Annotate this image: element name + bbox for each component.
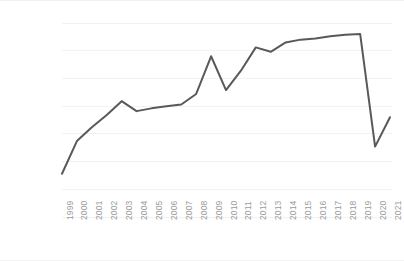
x-axis-tick-label: 2002 — [110, 201, 119, 220]
x-axis-tick-label: 2010 — [230, 201, 239, 220]
x-axis-tick-label: 2008 — [200, 201, 209, 220]
x-axis-tick-label: 2012 — [259, 201, 268, 220]
x-axis-tick-label: 2017 — [334, 201, 343, 220]
line-chart-figure: 0500,0001,000,0001,500,0002,000,0002,500… — [0, 0, 404, 261]
x-axis-tick-label: 1999 — [66, 201, 75, 220]
x-axis-tick-label: 2011 — [244, 201, 253, 220]
x-axis-tick-label: 2004 — [140, 201, 149, 220]
x-axis-tick-label: 2003 — [125, 201, 134, 220]
x-axis-tick-label: 2009 — [215, 201, 224, 220]
x-axis-tick-label: 2005 — [155, 201, 164, 220]
x-axis-tick-label: 2016 — [319, 201, 328, 220]
x-axis-tick-label: 2020 — [379, 201, 388, 220]
x-axis-tick-label: 2001 — [95, 201, 104, 220]
x-axis-tick-label: 2007 — [185, 201, 194, 220]
x-axis: 1999200020012002200320042005200620072008… — [0, 1, 404, 261]
x-axis-tick-label: 2019 — [364, 201, 373, 220]
x-axis-tick-label: 2013 — [274, 201, 283, 220]
x-axis-tick-label: 2000 — [80, 201, 89, 220]
x-axis-tick-label: 2021 — [394, 201, 403, 220]
x-axis-tick-label: 2006 — [170, 201, 179, 220]
x-axis-tick-label: 2014 — [289, 201, 298, 220]
x-axis-tick-label: 2015 — [304, 201, 313, 220]
x-axis-tick-label: 2018 — [349, 201, 358, 220]
